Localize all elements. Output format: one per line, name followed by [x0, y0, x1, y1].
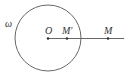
label-m-prime: M′	[61, 25, 73, 36]
point-m-prime	[66, 37, 69, 40]
label-center: O	[45, 25, 52, 36]
inversion-diagram: ω O M′ M	[0, 0, 131, 76]
label-m: M	[103, 25, 113, 36]
point-center	[47, 37, 50, 40]
label-omega: ω	[5, 18, 12, 29]
point-m	[107, 37, 110, 40]
